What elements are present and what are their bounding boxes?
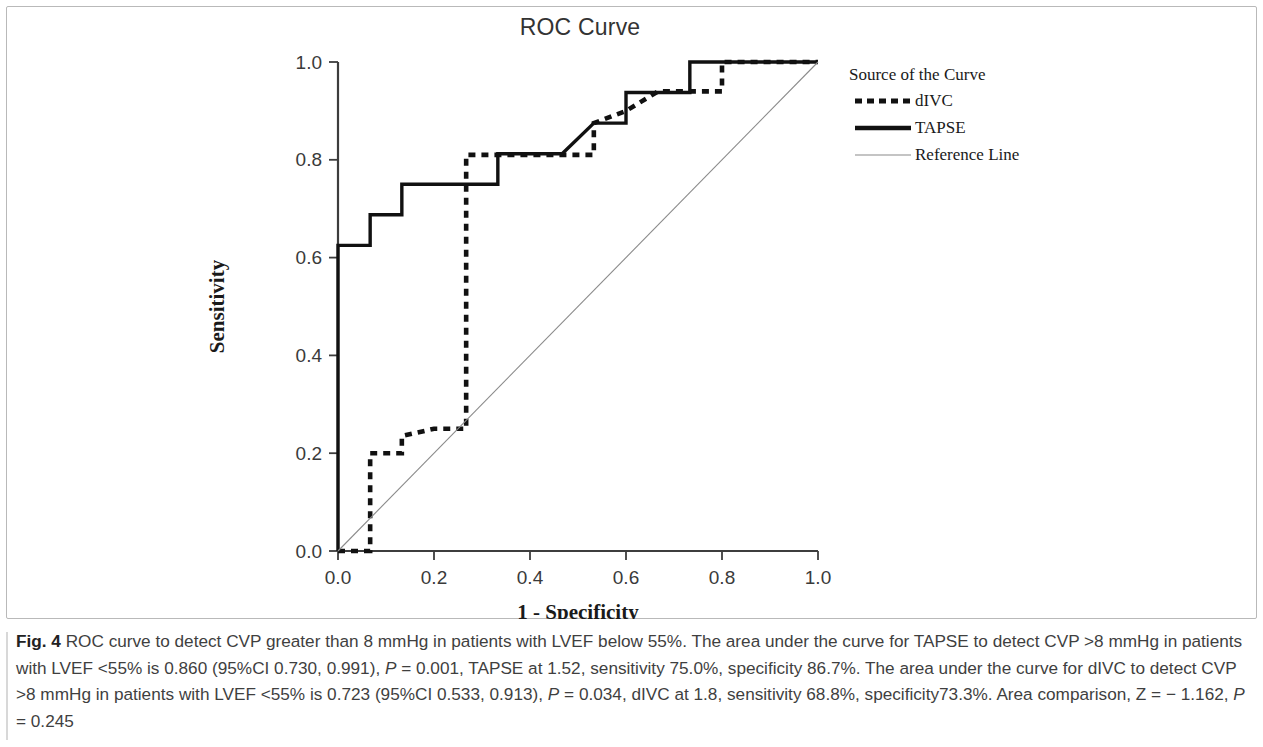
x-tick-label: 0.2 [421,567,447,588]
caption-p-3: P [1233,684,1244,704]
caption-part-4: = 0.245 [16,711,74,731]
y-axis-title: Sensitivity [205,259,229,353]
x-tick-label: 0.8 [709,567,735,588]
caption-p-1: P [385,658,396,678]
y-tick-label: 0.0 [296,541,322,562]
figure-caption: Fig. 4 ROC curve to detect CVP greater t… [6,628,1257,734]
caption-p-2: P [548,684,559,704]
x-tick-label: 0.6 [613,567,639,588]
plot-axes: 0.00.20.40.60.81.00.00.20.40.60.81.01 - … [205,52,831,620]
x-tick-label: 1.0 [805,567,831,588]
caption-part-3: = 0.034, dIVC at 1.8, sensitivity 68.8%,… [559,684,1233,704]
x-tick-label: 0.4 [517,567,544,588]
y-tick-label: 0.4 [296,345,323,366]
legend-label-reference-line: Reference Line [915,145,1019,164]
y-tick-label: 0.8 [296,149,322,170]
roc-plot: 0.00.20.40.60.81.00.00.20.40.60.81.01 - … [6,6,1257,619]
y-tick-label: 0.6 [296,247,322,268]
series-line-reference-line [338,62,818,551]
y-tick-label: 0.2 [296,443,322,464]
legend-title: Source of the Curve [849,65,985,84]
x-axis-title: 1 - Specificity [517,600,639,619]
caption-figure-number: Fig. 4 [16,631,61,651]
x-tick-label: 0.0 [325,567,351,588]
y-tick-label: 1.0 [296,52,322,73]
legend-label-divc: dIVC [915,91,953,110]
legend-label-tapse: TAPSE [915,118,966,137]
figure-root: ROC Curve 0.00.20.40.60.81.00.00.20.40.6… [0,0,1263,747]
plot-series [338,62,818,551]
plot-legend: Source of the CurvedIVCTAPSEReference Li… [849,65,1019,164]
